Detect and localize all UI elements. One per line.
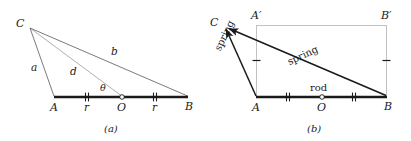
figure-container: C A O B a d b r r θ (a) C A′ B′ A O B sp… — [0, 0, 411, 141]
segment-CA — [30, 28, 54, 96]
vector-spring-BC — [229, 29, 386, 96]
segment-CB — [30, 28, 188, 96]
panel-a-graphics — [30, 28, 188, 101]
figure-vector-graphics — [0, 0, 411, 141]
point-marker-O-a — [120, 95, 125, 100]
vector-spring-AC — [226, 29, 256, 96]
point-marker-O-b — [320, 95, 325, 100]
panel-b-graphics — [226, 26, 391, 102]
